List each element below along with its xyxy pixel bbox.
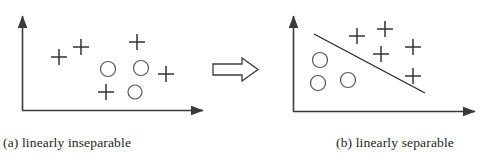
caption-panel-b: (b) linearly separable [336,136,454,150]
figure-root: (a) linearly inseparable (b) linearly se… [0,0,491,164]
caption-panel-a: (a) linearly inseparable [3,136,131,150]
